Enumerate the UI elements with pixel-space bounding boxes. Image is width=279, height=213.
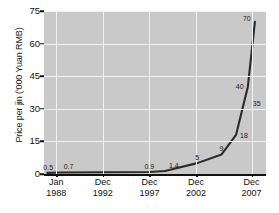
x-tick-month: Dec: [139, 177, 159, 188]
data-point-label: 5: [195, 154, 199, 161]
y-tick-label: 60: [29, 39, 40, 49]
data-point-label: 70: [243, 15, 251, 22]
y-tick-mark: [40, 75, 44, 77]
x-tick-mark: [252, 174, 254, 177]
horizontal-gridline: [44, 11, 266, 12]
data-point-label: 9: [220, 145, 224, 152]
y-tick-label: 45: [29, 71, 40, 81]
x-tick-label: Dec2007: [242, 177, 262, 199]
data-point-label: 1.4: [169, 162, 179, 169]
x-tick-mark: [56, 174, 58, 177]
y-tick-label: 75: [29, 6, 40, 16]
horizontal-gridline: [44, 44, 266, 45]
x-tick-label: Jan1988: [46, 177, 66, 199]
vertical-gridline: [56, 11, 57, 174]
data-point-label: 0.7: [64, 163, 74, 170]
horizontal-gridline: [44, 141, 266, 142]
y-tick-mark: [40, 141, 44, 143]
price-series-line: [44, 11, 266, 174]
x-tick-year: 1988: [46, 188, 66, 199]
x-tick-month: Jan: [46, 177, 66, 188]
x-axis-line: [44, 174, 266, 176]
y-tick-mark: [40, 108, 44, 110]
horizontal-gridline: [44, 109, 266, 110]
x-tick-year: 2007: [242, 188, 262, 199]
data-point-label: 0.5: [43, 164, 53, 171]
x-tick-label: Dec1997: [139, 177, 159, 199]
y-tick-label: 15: [29, 137, 40, 147]
data-point-label: 35: [253, 100, 261, 107]
x-tick-mark: [149, 174, 151, 177]
x-tick-label: Dec2002: [186, 177, 206, 199]
data-point-label: 40: [236, 83, 244, 90]
data-point-label: 0.9: [144, 163, 154, 170]
x-tick-year: 1997: [139, 188, 159, 199]
y-axis-tick-labels: 01530456075: [22, 0, 40, 213]
price-line-chart: Price per jin ('000 Yuan RMB) 0153045607…: [0, 0, 279, 213]
y-tick-label: 30: [29, 104, 40, 114]
x-tick-label: Dec1992: [93, 177, 113, 199]
x-tick-year: 1992: [93, 188, 113, 199]
x-tick-mark: [103, 174, 105, 177]
horizontal-gridline: [44, 76, 266, 77]
x-tick-month: Dec: [242, 177, 262, 188]
vertical-gridline: [252, 11, 253, 174]
vertical-gridline: [103, 11, 104, 174]
data-point-label: 18: [240, 132, 248, 139]
x-axis-tick-labels: Jan1988Dec1992Dec1997Dec2002Dec2007: [44, 177, 266, 213]
vertical-gridline: [196, 11, 197, 174]
x-tick-year: 2002: [186, 188, 206, 199]
y-tick-mark: [40, 173, 44, 175]
vertical-gridline: [149, 11, 150, 174]
x-tick-month: Dec: [186, 177, 206, 188]
x-tick-mark: [196, 174, 198, 177]
x-tick-month: Dec: [93, 177, 113, 188]
y-tick-mark: [40, 43, 44, 45]
y-tick-mark: [40, 10, 44, 12]
plot-area: 0.50.70.91.45918403570: [44, 11, 266, 174]
